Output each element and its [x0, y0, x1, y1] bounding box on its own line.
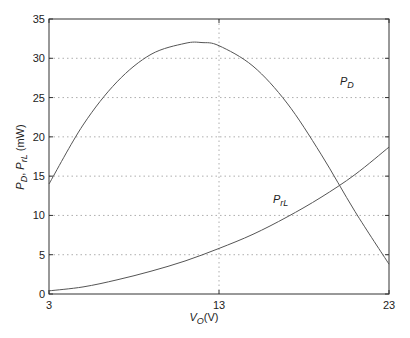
- grid-lines: [49, 19, 389, 294]
- x-tick-label: 13: [213, 299, 225, 311]
- y-tick-label: 5: [39, 249, 45, 261]
- y-tick-label: 20: [33, 131, 45, 143]
- chart: 0510152025303531323 PD PrL VO(V) PD, PrL…: [0, 0, 410, 338]
- y-tick-label: 35: [33, 13, 45, 25]
- y-tick-label: 30: [33, 52, 45, 64]
- y-tick-label: 25: [33, 92, 45, 104]
- x-tick-label: 3: [46, 299, 52, 311]
- series-label-pd: PD: [340, 75, 354, 90]
- x-axis-label: VO(V): [189, 311, 218, 326]
- y-tick-label: 15: [33, 170, 45, 182]
- y-tick-label: 10: [33, 209, 45, 221]
- series-label-prl: PrL: [273, 193, 288, 208]
- axis-ticks: 0510152025303531323: [33, 13, 395, 311]
- y-axis-label: PD, PrL (mW): [14, 124, 29, 189]
- x-tick-label: 23: [383, 299, 395, 311]
- y-tick-label: 0: [39, 288, 45, 300]
